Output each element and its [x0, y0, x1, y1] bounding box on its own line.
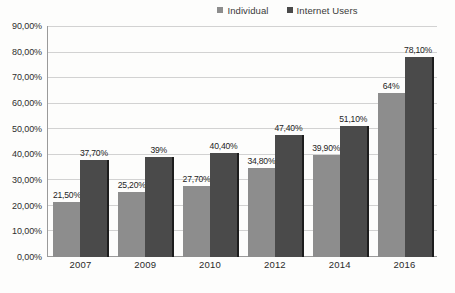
bar-slot: 21,50% — [53, 26, 80, 257]
bar-group: 39,90%51,10% — [307, 26, 372, 257]
bar-value-label: 40,40% — [210, 141, 238, 151]
legend-item-individual: Individual — [217, 5, 268, 16]
bar-value-label: 37,70% — [80, 148, 108, 158]
y-axis-tick-label: 80,00% — [12, 47, 42, 57]
bar-value-label: 47,40% — [274, 123, 302, 133]
bar-slot: 40,40% — [210, 26, 237, 257]
y-axis-tick-label: 10,00% — [12, 226, 42, 236]
bar-value-label: 27,70% — [183, 174, 211, 184]
legend-label-internet-users: Internet Users — [297, 5, 358, 16]
bar-group: 25,20%39% — [113, 26, 178, 257]
bar-slot: 27,70% — [183, 26, 210, 257]
bar-slot: 39% — [145, 26, 172, 257]
y-axis-tick-label: 40,00% — [12, 149, 42, 159]
bar-group: 21,50%37,70% — [48, 26, 113, 257]
x-axis-tick-label: 2007 — [48, 259, 113, 279]
bar-value-label: 39,90% — [312, 143, 340, 153]
bar-group: 34,80%47,40% — [242, 26, 307, 257]
bar[interactable]: 21,50% — [53, 202, 80, 257]
legend-swatch-individual — [217, 7, 223, 13]
bar[interactable]: 37,70% — [80, 160, 107, 257]
bar[interactable]: 39% — [145, 157, 172, 257]
y-axis-tick-label: 30,00% — [12, 175, 42, 185]
bar-group: 64%78,10% — [372, 26, 437, 257]
bar[interactable]: 78,10% — [405, 57, 432, 257]
x-axis-tick-label: 2009 — [113, 259, 178, 279]
x-axis-tick-label: 2010 — [178, 259, 243, 279]
bar-slot: 78,10% — [405, 26, 432, 257]
chart-legend: Individual Internet Users — [0, 2, 455, 18]
x-axis: 200720092010201220142016 — [48, 259, 437, 279]
x-axis-tick-label: 2012 — [242, 259, 307, 279]
bar-value-label: 25,20% — [118, 180, 146, 190]
bar-slot: 39,90% — [313, 26, 340, 257]
bar-value-label: 78,10% — [404, 45, 432, 55]
x-axis-tick-label: 2014 — [307, 259, 372, 279]
bar-series-container: 21,50%37,70%25,20%39%27,70%40,40%34,80%4… — [48, 26, 437, 257]
y-axis-tick-label: 60,00% — [12, 98, 42, 108]
bar-value-label: 39% — [150, 145, 167, 155]
bar-value-label: 21,50% — [53, 190, 81, 200]
bar-value-label: 64% — [383, 81, 400, 91]
legend-item-internet-users: Internet Users — [287, 5, 358, 16]
bar[interactable]: 34,80% — [248, 168, 275, 257]
bar-slot: 34,80% — [248, 26, 275, 257]
bar-chart: Individual Internet Users 0,00%10,00%20,… — [0, 0, 455, 293]
legend-label-individual: Individual — [227, 5, 268, 16]
bar-slot: 51,10% — [340, 26, 367, 257]
legend-swatch-internet-users — [287, 7, 293, 13]
bar-slot: 25,20% — [118, 26, 145, 257]
bar-slot: 37,70% — [80, 26, 107, 257]
bar-value-label: 51,10% — [339, 114, 367, 124]
x-axis-tick-label: 2016 — [372, 259, 437, 279]
bar-value-label: 34,80% — [247, 156, 275, 166]
y-axis-tick-label: 70,00% — [12, 72, 42, 82]
bar[interactable]: 64% — [378, 93, 405, 257]
bar[interactable]: 47,40% — [275, 135, 302, 257]
y-axis-tick-label: 90,00% — [12, 21, 42, 31]
bar[interactable]: 39,90% — [313, 155, 340, 257]
bar-slot: 47,40% — [275, 26, 302, 257]
bar[interactable]: 51,10% — [340, 126, 367, 257]
y-axis-tick-label: 0,00% — [17, 252, 42, 262]
bar-group: 27,70%40,40% — [178, 26, 243, 257]
bar[interactable]: 40,40% — [210, 153, 237, 257]
bar-slot: 64% — [378, 26, 405, 257]
bar[interactable]: 27,70% — [183, 186, 210, 257]
y-axis-tick-label: 20,00% — [12, 201, 42, 211]
y-axis: 0,00%10,00%20,00%30,00%40,00%50,00%60,00… — [0, 26, 42, 257]
y-axis-tick-label: 50,00% — [12, 124, 42, 134]
bar[interactable]: 25,20% — [118, 192, 145, 257]
